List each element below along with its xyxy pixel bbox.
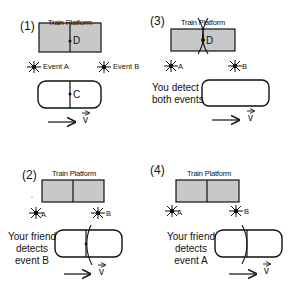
panel-label: (2) [22, 169, 37, 181]
train-car [55, 230, 122, 257]
event-b-label: Event B [113, 63, 139, 71]
event-b-star-icon [91, 207, 105, 219]
event-a-star-icon [164, 60, 178, 72]
event-a-label: A [178, 63, 183, 71]
panel-4: (4) Train Platform A B Your friend detec… [147, 147, 295, 294]
panel-3: (3) Train Platform D A B You detect both… [147, 0, 295, 147]
panel-label: (4) [150, 164, 165, 176]
event-a-label: Event A [43, 63, 69, 71]
platform-title: Train Platform [181, 19, 225, 27]
platform-title: Train Platform [187, 170, 231, 178]
event-b-label: B [244, 208, 249, 216]
platform-title: Train Platform [48, 19, 92, 27]
train-platform [42, 180, 104, 202]
velocity-label: v [99, 267, 104, 277]
speck [31, 196, 32, 197]
velocity-label: v [248, 113, 253, 123]
panel-label: (3) [150, 15, 165, 27]
platform-title: Train Platform [52, 170, 96, 178]
panel-1: (1) Train Platform D Event A Event B C v [0, 0, 148, 147]
velocity-label: v [83, 115, 88, 125]
event-a-star-icon [27, 61, 41, 73]
train-car [215, 230, 282, 257]
event-a-label: A [41, 211, 46, 219]
event-b-label: B [106, 210, 111, 218]
event-b-star-icon [229, 205, 243, 217]
velocity-label: v [264, 266, 269, 276]
train-car [38, 81, 101, 108]
caption: Your friend detects event B [8, 231, 56, 267]
panel-label: (1) [20, 20, 35, 32]
panel-2: (2) Train Platform A B Your friend detec… [0, 147, 148, 294]
point-d-label: D [206, 36, 213, 46]
event-a-label: A [177, 209, 182, 217]
train-platform [176, 180, 239, 202]
train-platform [39, 23, 101, 52]
caption: You detect both events [152, 82, 204, 106]
event-b-label: B [242, 63, 247, 71]
event-b-star-icon [97, 61, 111, 73]
point-d-label: D [73, 36, 80, 46]
event-b-star-icon [228, 60, 242, 72]
train-car [202, 80, 269, 106]
caption: Your friend detects event A [167, 231, 215, 267]
point-c-label: C [73, 90, 80, 100]
